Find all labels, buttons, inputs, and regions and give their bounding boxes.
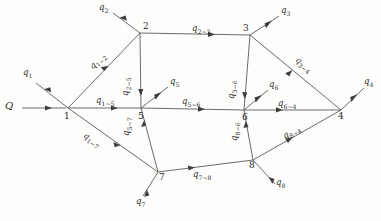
external-arrow-q3: [250, 16, 279, 35]
flow-label-q1: q1: [23, 68, 32, 79]
node-label-8: 8: [249, 161, 255, 170]
node-label-2: 2: [143, 22, 149, 31]
node-label-1: 1: [64, 112, 70, 121]
flow-label-q3-6: q3~6: [227, 80, 238, 99]
external-arrow-q1: [36, 83, 68, 108]
node-label-5: 5: [138, 112, 144, 121]
edge-3-6: [242, 35, 250, 110]
external-arrow-q7: [143, 172, 158, 197]
node-label-4: 4: [338, 112, 344, 121]
network-flow-diagram: Q 1 2 3 4 5 6 7 8 q1~2 q1~5 q1~7 q2~3 q2…: [0, 0, 381, 221]
flow-label-q2-3: q2~3: [192, 24, 211, 35]
node-label-6: 6: [242, 113, 248, 122]
external-arrow-q8: [253, 160, 275, 184]
flow-label-q7-8: q7~8: [193, 170, 212, 181]
flow-label-q2-5: q2~5: [121, 77, 132, 96]
source-label: Q: [5, 101, 13, 111]
flow-label-q2: q2: [99, 3, 108, 14]
node-label-3: 3: [243, 24, 249, 33]
edge-source-to-1: [22, 105, 66, 110]
external-arrow-q5: [141, 87, 168, 108]
flow-label-q8: q8: [276, 178, 285, 189]
node-label-7: 7: [159, 173, 165, 182]
flow-label-q5: q5: [170, 77, 179, 88]
edge-2-5: [138, 33, 143, 108]
flow-label-q4: q4: [364, 77, 373, 88]
flow-label-q8-6: q8~6: [230, 122, 241, 141]
flow-label-q6: q6: [269, 80, 278, 91]
external-arrow-q6: [244, 90, 268, 110]
external-arrow-q2: [113, 13, 140, 33]
external-arrow-q4: [341, 88, 364, 110]
flow-label-q3: q3: [281, 6, 290, 17]
flow-label-q5-7: q5~7: [122, 117, 133, 136]
flow-label-q7: q7: [136, 197, 145, 208]
flow-label-q6-4: q6~4: [278, 99, 297, 110]
network-graph-canvas: [0, 0, 381, 221]
flow-label-q5-6: q5~6: [182, 97, 201, 108]
flow-label-q1-5: q1~5: [96, 96, 115, 107]
